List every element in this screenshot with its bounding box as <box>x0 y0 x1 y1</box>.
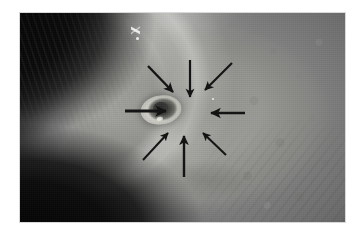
clinical-photograph <box>20 13 345 222</box>
arrow-pointing-up-right-from-lower-left <box>143 133 168 160</box>
arrow-svg <box>20 13 345 222</box>
arrow-pointing-down-left-from-upper-right <box>205 63 232 90</box>
annotation-arrow-layer <box>20 13 345 222</box>
figure-root <box>0 0 360 236</box>
arrow-pointing-up-left-from-lower-right <box>203 133 226 155</box>
arrow-pointing-down-right-from-upper-left <box>148 66 173 92</box>
